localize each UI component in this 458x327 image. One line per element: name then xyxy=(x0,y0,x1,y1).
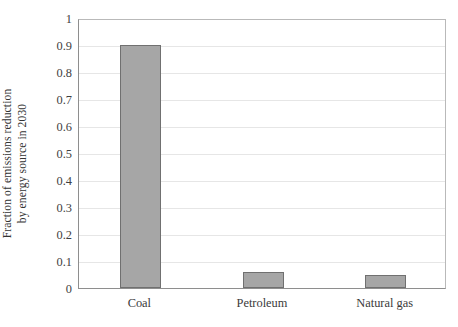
x-axis-tick-label: Natural gas xyxy=(323,296,446,310)
y-axis-title: Fraction of emissions reduction by energ… xyxy=(0,0,42,327)
bar-natural-gas[interactable] xyxy=(365,275,406,289)
y-axis-tick-label: 0.3 xyxy=(30,202,72,214)
y-axis-tick-label: 0 xyxy=(30,283,72,295)
x-axis-tick-label: Coal xyxy=(78,296,201,310)
bar-chart-figure: Fraction of emissions reduction by energ… xyxy=(0,0,458,327)
plot-area xyxy=(78,19,446,289)
y-axis-title-line-1: Fraction of emissions reduction xyxy=(1,89,14,239)
y-axis-tick-label: 0.8 xyxy=(30,67,72,79)
y-axis-tick-label: 0.6 xyxy=(30,121,72,133)
bar-coal[interactable] xyxy=(120,45,161,288)
y-axis-tick-label: 0.9 xyxy=(30,40,72,52)
y-axis-tick-label: 0.4 xyxy=(30,175,72,187)
y-axis-tick-label: 0.5 xyxy=(30,148,72,160)
bar-petroleum[interactable] xyxy=(243,272,284,288)
y-axis-title-line-2: by energy source in 2030 xyxy=(15,89,31,239)
x-axis-tick-labels: CoalPetroleumNatural gas xyxy=(78,296,446,320)
y-axis-tick-label: 1 xyxy=(30,13,72,25)
y-axis-tick-label: 0.2 xyxy=(30,229,72,241)
x-axis-tick-label: Petroleum xyxy=(201,296,324,310)
y-axis-tick-label: 0.1 xyxy=(30,256,72,268)
y-axis-tick-label: 0.7 xyxy=(30,94,72,106)
